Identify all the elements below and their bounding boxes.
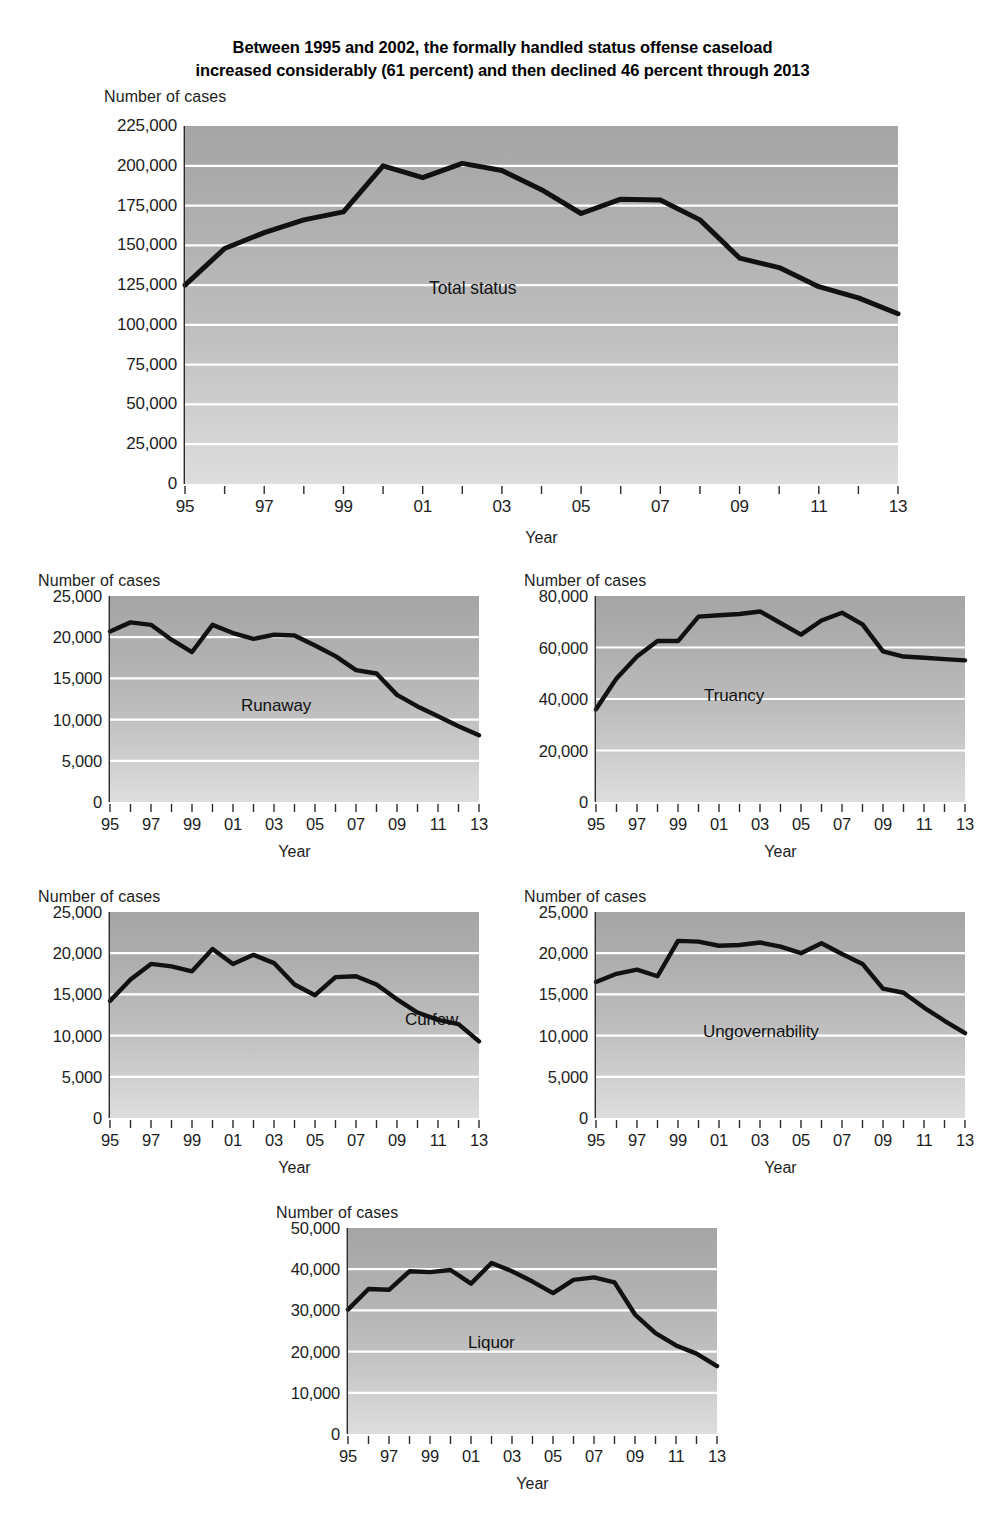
y-tick-label: 0 (38, 793, 102, 812)
x-tick-label: 01 (462, 1447, 480, 1466)
x-tick-label: 07 (651, 497, 670, 517)
x-tick-label: 11 (668, 1447, 685, 1466)
x-tick-label: 11 (916, 1131, 933, 1150)
y-tick-label: 200,000 (104, 156, 177, 176)
x-tick-label: 05 (792, 815, 810, 834)
y-tick-label: 15,000 (38, 985, 102, 1004)
chart-total-status: Number of cases025,00050,00075,000100,00… (104, 88, 924, 558)
x-tick-label: 09 (626, 1447, 644, 1466)
y-axis-title: Number of cases (104, 88, 226, 106)
x-tick-label: 99 (183, 815, 201, 834)
y-tick-label: 10,000 (38, 710, 102, 729)
x-tick-label: 07 (833, 1131, 851, 1150)
x-tick-label: 97 (142, 815, 160, 834)
x-tick-label: 97 (142, 1131, 160, 1150)
x-tick-label: 05 (306, 815, 324, 834)
x-tick-label: 11 (430, 1131, 447, 1150)
y-tick-label: 20,000 (38, 628, 102, 647)
x-tick-label: 97 (628, 815, 646, 834)
x-axis-title: Year (278, 1159, 310, 1177)
y-tick-label: 0 (524, 1109, 588, 1128)
x-tick-label: 07 (585, 1447, 603, 1466)
y-tick-label: 225,000 (104, 116, 177, 136)
series-label-ungovernability: Ungovernability (703, 1022, 819, 1042)
y-tick-label: 175,000 (104, 196, 177, 216)
x-tick-label: 95 (101, 815, 119, 834)
x-tick-label: 03 (503, 1447, 521, 1466)
series-label-total-status: Total status (429, 278, 516, 299)
y-tick-label: 25,000 (524, 903, 588, 922)
x-tick-label: 13 (470, 815, 488, 834)
plot-area (596, 596, 965, 802)
y-tick-label: 5,000 (524, 1067, 588, 1086)
y-tick-label: 0 (524, 793, 588, 812)
x-tick-label: 95 (587, 815, 605, 834)
y-tick-label: 40,000 (276, 1260, 340, 1279)
page-title-line-1: Between 1995 and 2002, the formally hand… (0, 36, 1005, 59)
y-tick-label: 15,000 (38, 669, 102, 688)
x-tick-label: 09 (730, 497, 749, 517)
page-title-line-2: increased considerably (61 percent) and … (0, 59, 1005, 82)
x-tick-label: 97 (628, 1131, 646, 1150)
x-tick-label: 99 (334, 497, 353, 517)
y-tick-label: 150,000 (104, 235, 177, 255)
x-tick-label: 95 (176, 497, 195, 517)
y-tick-label: 125,000 (104, 275, 177, 295)
x-tick-label: 07 (347, 1131, 365, 1150)
x-tick-label: 95 (339, 1447, 357, 1466)
y-tick-label: 5,000 (38, 1067, 102, 1086)
y-tick-label: 20,000 (276, 1342, 340, 1361)
series-label-runaway: Runaway (241, 696, 311, 716)
x-axis-title: Year (278, 843, 310, 861)
x-tick-label: 97 (380, 1447, 398, 1466)
x-tick-label: 13 (708, 1447, 726, 1466)
x-tick-label: 13 (956, 815, 974, 834)
x-tick-label: 07 (833, 815, 851, 834)
y-tick-label: 80,000 (524, 587, 588, 606)
x-tick-label: 03 (493, 497, 512, 517)
x-tick-label: 05 (572, 497, 591, 517)
x-axis-title: Year (525, 529, 557, 547)
x-tick-label: 01 (710, 815, 728, 834)
x-tick-label: 03 (265, 1131, 283, 1150)
x-tick-label: 03 (751, 815, 769, 834)
y-tick-label: 25,000 (104, 434, 177, 454)
x-tick-label: 01 (224, 815, 242, 834)
x-tick-label: 11 (430, 815, 447, 834)
x-tick-label: 05 (306, 1131, 324, 1150)
series-label-liquor: Liquor (468, 1333, 515, 1353)
y-tick-label: 25,000 (38, 903, 102, 922)
x-tick-label: 11 (810, 497, 827, 517)
y-tick-label: 5,000 (38, 751, 102, 770)
y-tick-label: 10,000 (38, 1026, 102, 1045)
x-tick-label: 03 (751, 1131, 769, 1150)
x-tick-label: 09 (388, 1131, 406, 1150)
x-tick-label: 13 (889, 497, 908, 517)
chart-runaway: Number of cases05,00010,00015,00020,0002… (38, 572, 488, 862)
chart-curfew: Number of cases05,00010,00015,00020,0002… (38, 888, 488, 1178)
y-tick-label: 0 (104, 474, 177, 494)
x-tick-label: 99 (669, 815, 687, 834)
plot-area (348, 1228, 717, 1434)
x-tick-label: 99 (183, 1131, 201, 1150)
chart-ungovernability: Number of cases05,00010,00015,00020,0002… (524, 888, 974, 1178)
x-tick-label: 99 (421, 1447, 439, 1466)
x-axis-title: Year (516, 1475, 548, 1493)
series-label-curfew: Curfew (405, 1010, 458, 1030)
x-tick-label: 95 (101, 1131, 119, 1150)
y-tick-label: 15,000 (524, 985, 588, 1004)
y-tick-label: 10,000 (276, 1383, 340, 1402)
y-tick-label: 60,000 (524, 638, 588, 657)
y-tick-label: 50,000 (104, 394, 177, 414)
y-tick-label: 20,000 (524, 944, 588, 963)
y-tick-label: 30,000 (276, 1301, 340, 1320)
x-axis-title: Year (764, 1159, 796, 1177)
x-tick-label: 01 (710, 1131, 728, 1150)
x-tick-label: 97 (255, 497, 274, 517)
data-line-ungovernability (596, 941, 965, 1033)
y-tick-label: 0 (276, 1425, 340, 1444)
y-tick-label: 25,000 (38, 587, 102, 606)
x-tick-label: 01 (224, 1131, 242, 1150)
x-tick-label: 13 (470, 1131, 488, 1150)
y-tick-label: 0 (38, 1109, 102, 1128)
